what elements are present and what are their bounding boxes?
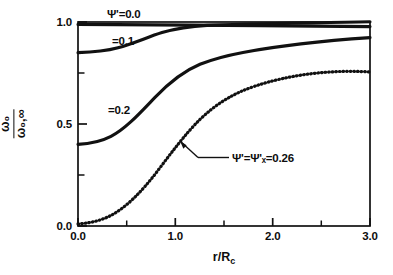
- series-label-psi-0: Ψ'=0.0: [107, 8, 141, 20]
- y-axis-denominator: ω₀,∞: [15, 110, 29, 139]
- x-tick-label-1: 1.0: [168, 230, 183, 242]
- y-tick-label-0: 0.0: [46, 220, 72, 232]
- series-label-psi-crit: Ψ'=Ψ'ₓ=0.26: [232, 152, 294, 164]
- figure-container: 0.0 1.0 2.0 3.0 0.0 0.5 1.0 Ψ'=0.0 =0.1 …: [0, 0, 393, 275]
- curve-psi-0.26: [78, 71, 370, 224]
- x-tick-label-0: 0.0: [70, 230, 85, 242]
- x-tick-label-3: 3.0: [362, 230, 377, 242]
- axes-frame: [78, 22, 370, 226]
- x-axis-title-subscript: c: [230, 256, 235, 266]
- y-tick-label-1: 0.5: [46, 118, 72, 130]
- plot-border: [78, 22, 370, 226]
- x-axis-title: r/Rc: [213, 250, 235, 266]
- y-tick-label-2: 1.0: [46, 16, 72, 28]
- x-axis-title-main: r/R: [213, 250, 230, 264]
- y-axis-fraction: ω₀ ω₀,∞: [0, 110, 29, 139]
- curve-psi-0.2: [78, 38, 370, 145]
- x-tick-label-2: 2.0: [265, 230, 280, 242]
- chart-canvas: [0, 0, 393, 275]
- annotation-leader-line: [180, 141, 229, 158]
- y-axis-numerator: ω₀: [0, 110, 15, 139]
- series-label-psi-02: =0.2: [108, 104, 130, 116]
- series-label-psi-01: =0.1: [112, 35, 134, 47]
- y-axis-title: ω₀ ω₀,∞: [0, 110, 29, 139]
